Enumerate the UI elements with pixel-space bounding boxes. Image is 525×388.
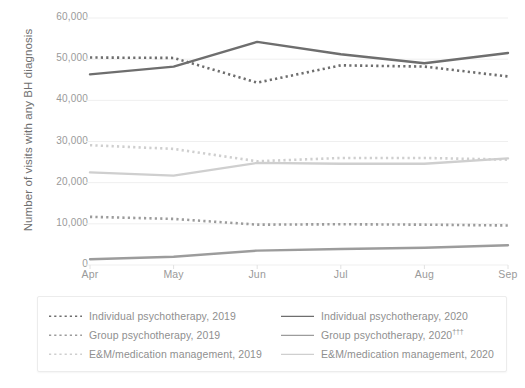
x-tick-label: Aug: [415, 268, 434, 280]
series-line: [90, 42, 508, 75]
gridlines: [86, 18, 508, 265]
legend-line-swatch: [49, 333, 82, 336]
x-tick-label: Jul: [334, 268, 348, 280]
series-line: [90, 245, 508, 259]
x-tick-label: Apr: [82, 268, 99, 280]
legend-line-swatch: [49, 314, 82, 317]
legend-label: E&M/medication management, 2019: [89, 348, 262, 360]
legend-item[interactable]: E&M/medication management, 2019: [49, 344, 281, 363]
x-tick-label: Jun: [248, 268, 266, 280]
legend-footnote-marker: †††: [452, 328, 463, 335]
legend-label: Individual psychotherapy, 2019: [89, 310, 236, 322]
x-tick-label: Sep: [498, 268, 517, 280]
legend-items: Individual psychotherapy, 2019Individual…: [49, 306, 497, 363]
legend-line-swatch: [281, 333, 314, 336]
data-series-lines: [90, 42, 508, 259]
legend-label: E&M/medication management, 2020: [321, 348, 494, 360]
legend: Individual psychotherapy, 2019Individual…: [37, 296, 507, 372]
plot-area: Number of visits with any BH diagnosis 6…: [0, 0, 525, 288]
plot-svg: [0, 0, 525, 288]
x-tick-label: May: [163, 268, 183, 280]
x-axis-ticks: [90, 265, 508, 269]
legend-item[interactable]: Individual psychotherapy, 2020: [281, 306, 497, 325]
legend-line-swatch: [49, 352, 82, 355]
series-line: [90, 145, 508, 161]
legend-line-swatch: [281, 352, 314, 355]
legend-item[interactable]: E&M/medication management, 2020: [281, 344, 497, 363]
series-line: [90, 158, 508, 175]
legend-label: Individual psychotherapy, 2020: [321, 310, 468, 322]
legend-label: Group psychotherapy, 2019: [89, 329, 220, 341]
legend-item[interactable]: Group psychotherapy, 2020†††: [281, 325, 497, 344]
legend-item[interactable]: Individual psychotherapy, 2019: [49, 306, 281, 325]
legend-label: Group psychotherapy, 2020†††: [321, 328, 463, 341]
legend-item[interactable]: Group psychotherapy, 2019: [49, 325, 281, 344]
line-chart: Number of visits with any BH diagnosis 6…: [0, 0, 525, 388]
legend-line-swatch: [281, 314, 314, 317]
